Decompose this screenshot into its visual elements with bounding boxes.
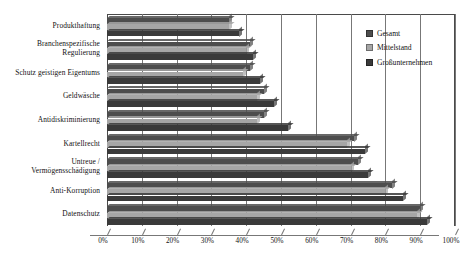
legend-item[interactable]: Mittelstand [366,41,466,56]
bar-großunternehmen [107,219,427,225]
legend-item[interactable]: Gesamt [366,26,466,41]
bar-face [107,172,368,178]
bar-side-face [239,26,242,36]
x-tick-label: 30% [201,237,214,245]
x-tick-mark [177,228,181,235]
category-label: Branchenspezifische Regulierung [0,41,100,58]
bar-side-face [264,108,267,118]
x-tick-mark [211,228,215,235]
bar-side-face [392,178,395,188]
x-tick-label: 0% [98,237,108,245]
bar-face [107,149,365,155]
x-tick-label: 60% [305,237,318,245]
category-label: Produkthaftung [0,21,100,30]
bar-face [107,78,260,84]
bar-großunternehmen [107,31,239,37]
category-label: Datenschutz [0,210,100,219]
legend: GesamtMittelstandGroßunternehmen [366,26,466,70]
category-label: Anti-Korruption [0,186,100,195]
bar-side-face [358,155,361,165]
bar-group [107,179,455,203]
legend-label: Großunternehmen [377,58,432,67]
x-tick-label: 80% [375,237,388,245]
legend-swatch-icon [366,30,373,37]
x-tick-mark [246,228,250,235]
x-tick-mark [420,228,424,235]
bar-face [107,31,239,37]
bar-side-face [288,120,291,130]
bar-face [107,196,403,202]
bar-group [107,202,455,226]
bar-side-face [427,215,430,225]
x-tick-mark [455,228,459,235]
x-tick-mark [316,228,320,235]
x-tick-label: 50% [270,237,283,245]
bar-side-face [368,167,371,177]
value-axis: 0%10%20%30%40%50%60%70%80%90%100% [99,228,467,248]
bar-side-face [365,144,368,154]
x-tick-mark [281,228,285,235]
bar-group [107,132,455,156]
legend-item[interactable]: Großunternehmen [366,55,466,70]
x-tick-label: 90% [410,237,423,245]
bar-großunternehmen [107,78,260,84]
bar-group [107,155,455,179]
bar-side-face [253,50,256,60]
bar-side-face [260,73,263,83]
bar-face [107,219,427,225]
bar-side-face [274,97,277,107]
bar-großunternehmen [107,54,253,60]
x-tick-mark [351,228,355,235]
bar-großunternehmen [107,196,403,202]
bar-side-face [354,131,357,141]
x-tick-label: 100% [443,237,460,245]
bar-großunternehmen [107,172,368,178]
bar-großunternehmen [107,149,365,155]
bar-face [107,101,274,107]
x-tick-label: 70% [340,237,353,245]
bar-face [107,125,288,131]
legend-swatch-icon [366,44,373,51]
legend-label: Mittelstand [377,43,412,52]
x-tick-label: 20% [166,237,179,245]
category-label: Schutz geistigen Eigentums [0,69,100,78]
bar-side-face [250,60,253,70]
bar-side-face [403,191,406,201]
category-label: Untreue / Vermögensschädigung [0,159,100,176]
x-tick-mark [385,228,389,235]
legend-label: Gesamt [377,29,400,38]
x-tick-label: 40% [236,237,249,245]
category-label: Geldwäsche [0,92,100,101]
category-label: Antidiskriminierung [0,116,100,125]
bar-group [107,108,455,132]
category-axis: ProdukthaftungBranchenspezifische Reguli… [0,14,100,226]
bar-face [107,54,253,60]
bar-side-face [264,84,267,94]
bar-großunternehmen [107,101,274,107]
category-label: Kartellrecht [0,139,100,148]
x-tick-mark [142,228,146,235]
bar-group [107,85,455,109]
legend-swatch-icon [366,59,373,66]
x-tick-mark [107,228,111,235]
bar-großunternehmen [107,125,288,131]
bar-chart: ProdukthaftungBranchenspezifische Reguli… [0,0,467,274]
x-tick-label: 10% [131,237,144,245]
